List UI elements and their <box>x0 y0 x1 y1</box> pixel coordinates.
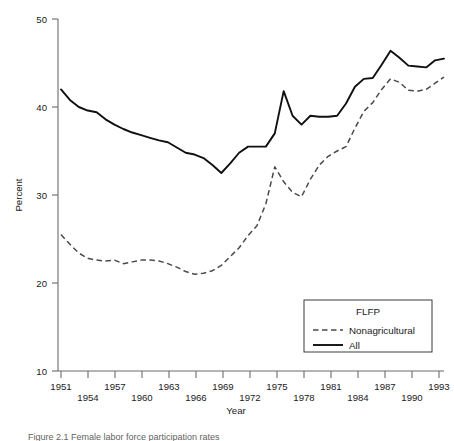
y-tick-label-20: 20 <box>36 278 47 289</box>
y-axis-title: Percent <box>13 178 24 211</box>
x-axis-tick-labels-upper: 1951 1957 1963 1969 1975 1981 1987 1993 <box>50 381 449 392</box>
x-tick-label-1966: 1966 <box>185 392 206 403</box>
y-axis-ticks <box>52 19 58 371</box>
x-tick-label-1993: 1993 <box>428 381 449 392</box>
x-tick-label-1981: 1981 <box>320 381 341 392</box>
x-axis-ticks <box>61 371 439 378</box>
legend-label-all: All <box>349 340 360 351</box>
chart-figure: 50 40 30 20 10 Percent <box>0 0 454 441</box>
figure-caption: Figure 2.1 Female labor force participat… <box>28 432 220 441</box>
y-tick-label-30: 30 <box>36 190 47 201</box>
x-tick-label-1963: 1963 <box>158 381 179 392</box>
x-tick-label-1984: 1984 <box>347 392 369 403</box>
y-tick-label-50: 50 <box>36 14 47 25</box>
x-tick-label-1990: 1990 <box>401 392 422 403</box>
x-tick-label-1978: 1978 <box>293 392 314 403</box>
x-tick-label-1987: 1987 <box>374 381 395 392</box>
x-tick-label-1975: 1975 <box>266 381 287 392</box>
legend-label-nonagricultural: Nonagricultural <box>349 325 415 336</box>
y-axis-tick-labels: 50 40 30 20 10 <box>36 14 47 377</box>
x-tick-label-1957: 1957 <box>104 381 125 392</box>
series-line-all <box>61 51 444 173</box>
y-tick-label-10: 10 <box>36 366 47 377</box>
flfp-line-chart: 50 40 30 20 10 Percent <box>0 0 454 441</box>
series-line-nonagricultural <box>61 77 444 274</box>
x-tick-label-1960: 1960 <box>131 392 152 403</box>
x-axis-title: Year <box>226 405 246 416</box>
x-axis-tick-labels-lower: 1954 1960 1966 1972 1978 1984 1990 <box>77 392 422 403</box>
legend: FLFP Nonagricultural All <box>304 300 432 352</box>
legend-title: FLFP <box>356 306 380 317</box>
x-tick-label-1969: 1969 <box>212 381 233 392</box>
x-tick-label-1951: 1951 <box>50 381 71 392</box>
x-tick-label-1972: 1972 <box>239 392 260 403</box>
x-tick-label-1954: 1954 <box>77 392 99 403</box>
y-tick-label-40: 40 <box>36 102 47 113</box>
